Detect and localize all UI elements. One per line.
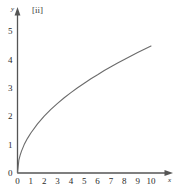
- x-tick-label: 0: [15, 176, 20, 186]
- y-tick-label: 3: [8, 83, 13, 93]
- x-tick-label: 6: [95, 176, 100, 186]
- x-tick-label: 10: [147, 176, 157, 186]
- x-tick-labels: 012345678910: [15, 176, 156, 186]
- y-axis-label: y: [10, 5, 15, 13]
- part-label: [ii]: [32, 5, 43, 15]
- x-tick-label: 3: [55, 176, 60, 186]
- y-tick-label: 1: [8, 140, 13, 150]
- x-tick-label: 8: [122, 176, 127, 186]
- y-tick-label: 2: [8, 111, 13, 121]
- x-tick-label: 1: [29, 176, 34, 186]
- x-tick-label: 2: [42, 176, 47, 186]
- curve-series-sqrt: [18, 46, 152, 173]
- x-axis-label: x: [167, 176, 172, 184]
- x-tick-label: 5: [82, 176, 87, 186]
- x-tick-label: 4: [69, 176, 74, 186]
- y-tick-labels: 012345: [8, 26, 13, 178]
- y-tick-label: 4: [8, 55, 13, 65]
- figure-panel: y x [ii] 012345 012345678910: [0, 0, 177, 190]
- x-tick-label: 9: [135, 176, 140, 186]
- y-tick-label: 5: [8, 26, 13, 36]
- plot-canvas: y x [ii] 012345 012345678910: [0, 0, 177, 190]
- y-tick-label: 0: [8, 168, 13, 178]
- x-tick-label: 7: [109, 176, 114, 186]
- y-axis-arrow-icon: [15, 7, 21, 16]
